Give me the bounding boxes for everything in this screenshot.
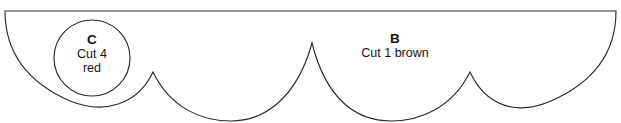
piece-c-letter: C [57, 32, 127, 47]
piece-b-label: B Cut 1 brown [330, 31, 460, 60]
piece-c-fabric-line: red [57, 61, 127, 75]
piece-c-label: C Cut 4 red [57, 32, 127, 75]
piece-c-cut-line: Cut 4 [57, 47, 127, 61]
pattern-canvas: C Cut 4 red B Cut 1 brown [0, 0, 621, 123]
piece-b-letter: B [330, 31, 460, 46]
piece-b-cut-line: Cut 1 brown [330, 46, 460, 60]
